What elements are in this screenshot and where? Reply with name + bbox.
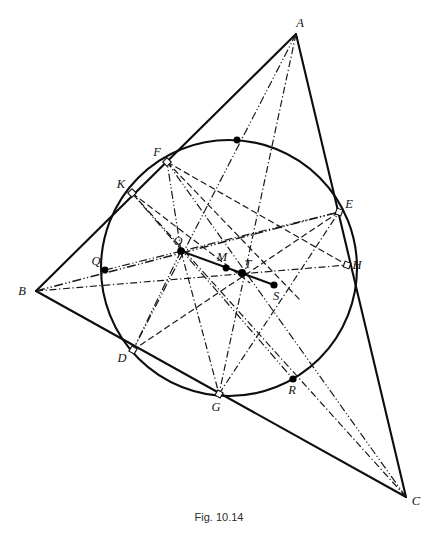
chord-e-d <box>133 212 339 350</box>
right-angle-mark-e <box>335 208 343 216</box>
label-e: E <box>344 197 353 211</box>
chords-group <box>105 162 347 394</box>
label-m: M <box>216 250 228 264</box>
label-g: G <box>211 400 220 414</box>
point-marker-s <box>270 281 277 288</box>
point-marker-m <box>223 265 230 272</box>
label-a: A <box>295 16 304 30</box>
figure-caption: Fig. 10.14 <box>195 511 244 523</box>
point-marker-q <box>102 267 109 274</box>
radius-o-d <box>133 251 181 350</box>
cevian-a-g <box>219 34 296 394</box>
right-angle-marks <box>128 158 351 398</box>
label-k: K <box>116 177 126 191</box>
label-r: R <box>287 383 296 397</box>
cevian-c-f <box>167 162 406 497</box>
label-c: C <box>412 494 421 508</box>
point-labels: A B C F K E H D G Q R O M T S <box>18 16 421 508</box>
figure-root: A B C F K E H D G Q R O M T S Fig. 10.14 <box>0 0 438 544</box>
right-angle-mark-h <box>343 261 351 269</box>
label-d: D <box>116 351 126 365</box>
label-q: Q <box>91 254 100 268</box>
label-s: S <box>273 289 280 303</box>
point-marker-r <box>289 375 296 382</box>
radius-o-g <box>181 251 219 394</box>
chord-f-s <box>167 162 300 300</box>
point-marker-o <box>177 247 185 255</box>
geometry-canvas: A B C F K E H D G Q R O M T S Fig. 10.14 <box>0 0 438 544</box>
label-o: O <box>173 234 182 248</box>
cevian-a-d <box>133 34 296 350</box>
side-ac <box>296 34 406 497</box>
label-t: T <box>245 257 253 271</box>
point-marker-top-circle <box>234 137 241 144</box>
label-f: F <box>152 145 161 159</box>
label-h: H <box>351 258 362 272</box>
point-markers <box>102 137 297 383</box>
label-b: B <box>18 284 26 298</box>
cevian-b-h <box>36 265 347 291</box>
